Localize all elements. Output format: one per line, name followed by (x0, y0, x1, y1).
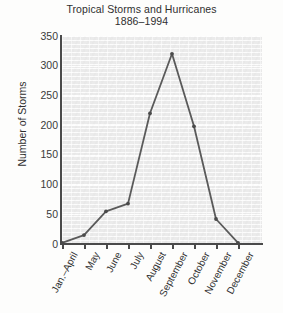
data-series-line (0, 0, 283, 313)
data-point (82, 233, 86, 237)
chart-container: Tropical Storms and Hurricanes 1886–1994… (0, 0, 283, 313)
data-point (214, 217, 218, 221)
data-point (170, 52, 174, 56)
data-point (104, 209, 108, 213)
data-point (236, 241, 240, 245)
data-point-markers (60, 52, 240, 245)
data-point (126, 202, 130, 206)
data-point (148, 111, 152, 115)
data-point (60, 241, 64, 245)
data-point (192, 124, 196, 128)
